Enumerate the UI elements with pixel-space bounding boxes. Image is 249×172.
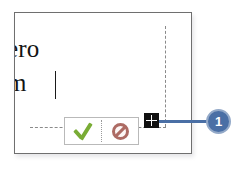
grid-move-handle[interactable] xyxy=(144,113,159,128)
check-icon xyxy=(72,122,94,140)
accept-button[interactable] xyxy=(65,118,101,144)
no-entry-icon xyxy=(112,123,129,140)
vertical-dashed-guide xyxy=(165,26,166,127)
accept-cancel-toolbar[interactable] xyxy=(64,117,139,145)
document-line-1: ero xyxy=(15,35,40,63)
cancel-button[interactable] xyxy=(102,118,138,144)
document-line-2: m xyxy=(15,69,27,97)
callout-leader-line xyxy=(159,120,211,123)
screenshot-root: ero m 1 xyxy=(0,0,249,172)
grid-handle-icon xyxy=(146,115,157,126)
callout-badge-1: 1 xyxy=(206,109,231,134)
text-caret xyxy=(55,71,56,99)
